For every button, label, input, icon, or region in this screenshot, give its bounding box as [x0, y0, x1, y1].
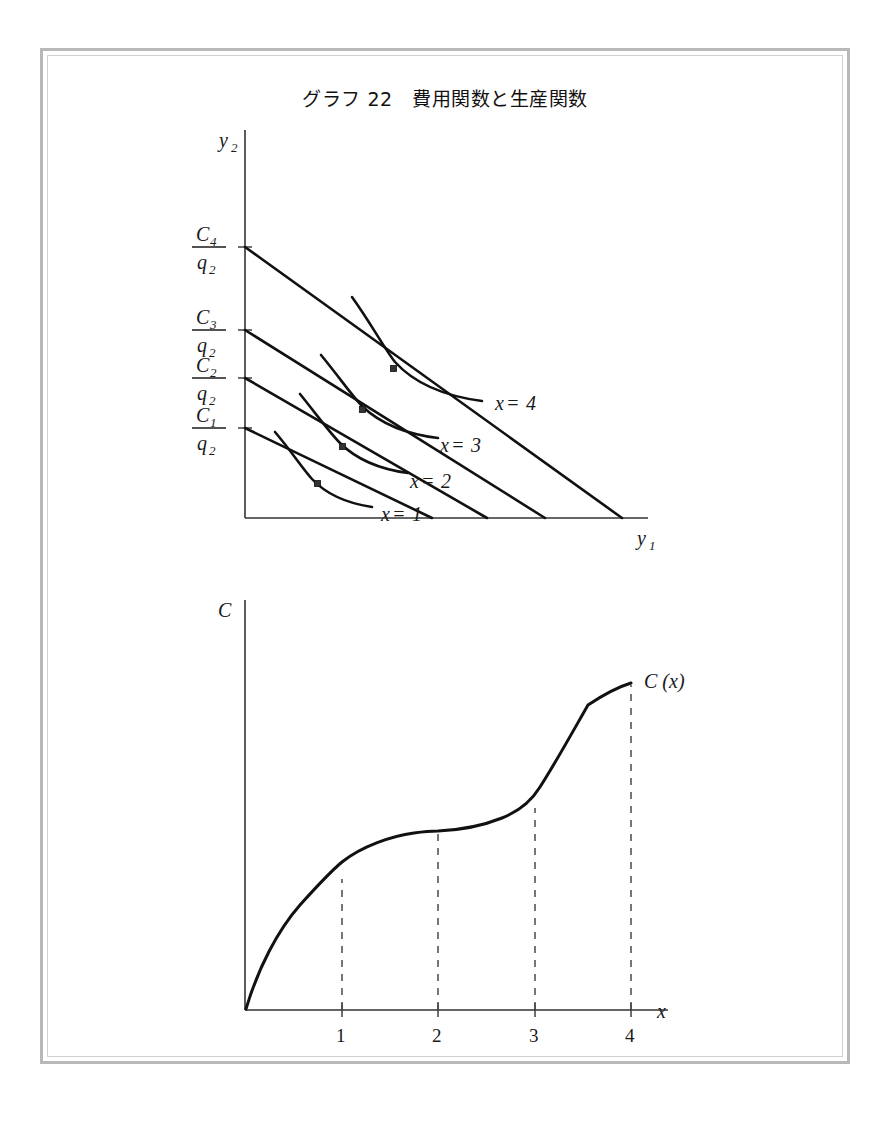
upper-y-label-c1-denominator-sub: 2: [209, 443, 216, 458]
isoquant-label-x4-rhs: 4: [526, 392, 536, 414]
isoquant-label-x1: x = 1: [380, 503, 422, 525]
upper-x-axis-label-sub: 1: [649, 538, 656, 553]
upper-y-label-c3-denominator-sub: 2: [209, 345, 216, 360]
isoquant-label-x4: x = 4: [494, 392, 536, 414]
figure-page: グラフ 22 費用関数と生産関数 y 2 y 1 C: [0, 0, 890, 1130]
isoquant-label-x2-rhs: 2: [441, 470, 451, 492]
upper-panel: y 2 y 1 C 4 q 2 C: [192, 129, 656, 553]
upper-y-label-c4: C 4 q 2: [192, 223, 226, 277]
isoquant-curve-x4: [352, 297, 482, 401]
isoquant-label-x1-lhs: x: [380, 503, 390, 525]
upper-y-label-c4-denominator: q: [197, 251, 207, 274]
isoquant-label-x2: x = 2: [409, 470, 451, 492]
tangency-point-x2: [340, 444, 346, 450]
isoquant-label-x2-eq: =: [421, 470, 435, 492]
isoquant-label-x1-rhs: 1: [412, 503, 422, 525]
lower-x-axis-label: x: [656, 1000, 666, 1022]
upper-y-label-c1: C 1 q 2: [192, 404, 226, 458]
upper-y-label-c4-denominator-sub: 2: [209, 262, 216, 277]
upper-y-label-c2: C 2 q 2: [192, 354, 226, 408]
cost-curve-label-text: C (x): [644, 670, 685, 693]
lower-x-tick-label-1: 1: [336, 1025, 346, 1046]
upper-y-label-c3: C 3 q 2: [192, 306, 226, 360]
lower-x-tick-label-3: 3: [529, 1025, 539, 1046]
upper-y-label-c2-denominator: q: [197, 382, 207, 405]
lower-x-tick-label-4: 4: [625, 1025, 635, 1046]
lower-x-tick-label-2: 2: [432, 1025, 442, 1046]
upper-x-axis-label: y 1: [635, 527, 656, 553]
isoquant-curve-x3: [321, 355, 438, 438]
upper-y-label-c2-denominator-sub: 2: [209, 393, 216, 408]
upper-y-axis-label-sub: 2: [231, 140, 238, 155]
isoquant-label-x3-lhs: x: [439, 434, 449, 456]
isoquant-label-x3: x = 3: [439, 434, 481, 456]
lower-y-axis-label: C: [218, 599, 232, 621]
isoquant-label-x3-rhs: 3: [470, 434, 481, 456]
isoquant-label-x4-eq: =: [506, 392, 520, 414]
upper-y-label-c1-numerator: C: [196, 404, 210, 426]
tangency-point-x3: [360, 407, 366, 413]
tangency-point-x1: [315, 481, 321, 487]
upper-y-label-c4-numerator: C: [196, 223, 210, 245]
upper-x-axis-label-base: y: [635, 527, 646, 550]
isoquant-label-x4-lhs: x: [494, 392, 504, 414]
isoquant-label-x1-eq: =: [392, 503, 406, 525]
upper-y-axis-label: y 2: [217, 129, 238, 155]
cost-curve-label: C (x): [644, 670, 685, 693]
isoquant-label-x3-eq: =: [451, 434, 465, 456]
lower-panel: C x 1 2 3 4 C (x): [218, 599, 685, 1046]
upper-y-label-c1-denominator: q: [197, 432, 207, 455]
upper-y-label-c2-numerator: C: [196, 354, 210, 376]
figure-svg: y 2 y 1 C 4 q 2 C: [0, 0, 890, 1130]
tangency-point-x4: [391, 366, 397, 372]
upper-y-label-c3-numerator: C: [196, 306, 210, 328]
isoquant-label-x2-lhs: x: [409, 470, 419, 492]
upper-y-axis-label-base: y: [217, 129, 228, 152]
isocost-line-c3: [245, 330, 545, 518]
